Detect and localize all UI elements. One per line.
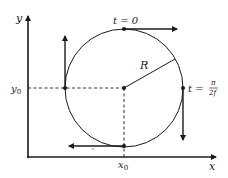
time-label-right-denominator: 2f bbox=[208, 89, 217, 97]
y-axis-label: y bbox=[15, 12, 23, 25]
circular-motion-diagram: y x y0 x0 R t = 0 t = π 2f bbox=[0, 0, 228, 178]
radius-label: R bbox=[139, 59, 148, 72]
point-left bbox=[63, 86, 67, 90]
point-top bbox=[122, 27, 126, 31]
time-label-right-numerator: π bbox=[210, 79, 216, 87]
time-label-right-prefix: t = bbox=[188, 83, 204, 94]
point-bottom bbox=[122, 144, 126, 148]
point-right bbox=[181, 86, 185, 90]
time-label-top: t = 0 bbox=[113, 15, 139, 26]
x0-label: x0 bbox=[118, 159, 128, 172]
y0-label: y0 bbox=[10, 83, 21, 96]
point-center bbox=[122, 86, 126, 90]
x-axis-label: x bbox=[209, 160, 216, 173]
radius-line bbox=[124, 59, 175, 88]
